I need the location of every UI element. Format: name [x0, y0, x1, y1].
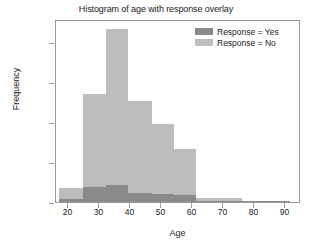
histogram-bar — [152, 124, 174, 202]
y-tick-mark — [49, 163, 54, 164]
chart-legend: Response = YesResponse = No — [192, 24, 282, 50]
x-tick-label: 60 — [176, 208, 206, 217]
histogram-bar — [106, 185, 128, 202]
y-tick-mark — [49, 43, 54, 44]
x-axis-label: Age — [55, 228, 300, 238]
x-tick-label: 30 — [83, 208, 113, 217]
histogram-bar — [128, 193, 151, 202]
histogram-bar — [152, 194, 174, 202]
histogram-bar — [266, 201, 291, 202]
histogram-bar — [219, 201, 242, 202]
histogram-bar — [196, 201, 219, 202]
y-axis-label: Frequency — [11, 29, 21, 149]
chart-title: Histogram of age with response overlay — [0, 3, 312, 15]
x-tick-label: 90 — [269, 208, 299, 217]
histogram-bar — [59, 199, 83, 202]
y-tick-mark — [49, 83, 54, 84]
legend-swatch-icon — [195, 39, 213, 46]
x-tick-label: 80 — [238, 208, 268, 217]
x-tick-label: 50 — [145, 208, 175, 217]
y-tick-mark — [49, 203, 54, 204]
histogram-bar — [242, 201, 265, 202]
y-tick-mark — [49, 123, 54, 124]
x-tick-label: 20 — [52, 208, 82, 217]
histogram-bar — [106, 29, 128, 202]
legend-label: Response = No — [217, 38, 276, 48]
histogram-bar — [174, 149, 196, 202]
x-tick-label: 40 — [114, 208, 144, 217]
legend-item: Response = Yes — [195, 26, 279, 37]
x-tick-label: 70 — [207, 208, 237, 217]
legend-swatch-icon — [195, 28, 213, 35]
legend-item: Response = No — [195, 37, 279, 48]
histogram-bar — [128, 101, 151, 202]
histogram-bar — [174, 195, 196, 202]
histogram-figure: Histogram of age with response overlay F… — [0, 0, 312, 245]
histogram-bar — [83, 94, 106, 202]
histogram-bar — [83, 187, 106, 202]
legend-label: Response = Yes — [217, 27, 279, 37]
